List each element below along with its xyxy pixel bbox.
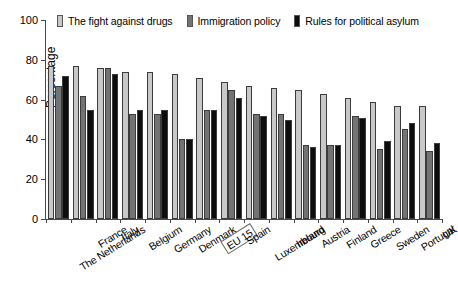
y-axis-tick-label: 0 bbox=[32, 213, 38, 225]
bar bbox=[62, 76, 68, 219]
bar bbox=[55, 86, 61, 219]
bar bbox=[352, 116, 358, 219]
bar bbox=[295, 90, 301, 219]
y-axis-tick-label: 80 bbox=[26, 54, 38, 66]
bar-group bbox=[343, 20, 368, 219]
bar-group bbox=[145, 20, 170, 219]
bar-group bbox=[219, 20, 244, 219]
bar bbox=[73, 66, 79, 219]
bar bbox=[285, 120, 291, 220]
bar bbox=[409, 123, 415, 219]
bar bbox=[320, 94, 326, 219]
bar bbox=[271, 88, 277, 219]
bar-group bbox=[195, 20, 220, 219]
bar bbox=[112, 74, 118, 219]
bar bbox=[221, 82, 227, 219]
x-axis-labels: The NetherlandsFranceItalyBelgiumGermany… bbox=[45, 221, 441, 294]
bar-group bbox=[393, 20, 418, 219]
bar-group bbox=[96, 20, 121, 219]
bar bbox=[154, 114, 160, 219]
bar bbox=[335, 145, 341, 219]
plot-area: 020406080100 Percentage bbox=[45, 20, 442, 220]
bar bbox=[419, 106, 425, 219]
bar bbox=[310, 147, 316, 219]
bar-group bbox=[170, 20, 195, 219]
bar bbox=[147, 72, 153, 219]
bar bbox=[402, 129, 408, 219]
bar bbox=[303, 145, 309, 219]
bar bbox=[228, 90, 234, 219]
bar bbox=[204, 110, 210, 219]
bar bbox=[434, 143, 440, 219]
y-axis-tick-label: 40 bbox=[26, 133, 38, 145]
bar-group bbox=[269, 20, 294, 219]
bar bbox=[172, 74, 178, 219]
bar bbox=[48, 66, 54, 219]
bar bbox=[186, 139, 192, 219]
bar bbox=[246, 86, 252, 219]
bar bbox=[384, 141, 390, 219]
bar bbox=[236, 98, 242, 219]
bar bbox=[327, 145, 333, 219]
bar bbox=[394, 106, 400, 219]
bar bbox=[260, 116, 266, 219]
bar bbox=[129, 114, 135, 219]
bar bbox=[377, 149, 383, 219]
bar bbox=[253, 114, 259, 219]
bar-group bbox=[368, 20, 393, 219]
y-axis-tick-label: 60 bbox=[26, 94, 38, 106]
bar-group bbox=[294, 20, 319, 219]
bar bbox=[105, 68, 111, 219]
y-axis-tick-label: 100 bbox=[20, 14, 38, 26]
bar bbox=[137, 110, 143, 219]
bar bbox=[278, 114, 284, 219]
bar-group bbox=[120, 20, 145, 219]
bar bbox=[161, 110, 167, 219]
bar bbox=[196, 78, 202, 219]
bar-group bbox=[318, 20, 343, 219]
bar-group bbox=[244, 20, 269, 219]
bars-container bbox=[46, 20, 442, 219]
bar-group bbox=[417, 20, 442, 219]
bar bbox=[426, 151, 432, 219]
bar bbox=[179, 139, 185, 219]
bar bbox=[122, 72, 128, 219]
bar-group bbox=[71, 20, 96, 219]
bar bbox=[211, 110, 217, 219]
bar bbox=[80, 96, 86, 219]
bar-group bbox=[46, 20, 71, 219]
bar bbox=[359, 118, 365, 219]
bar bbox=[97, 68, 103, 219]
y-axis-tick-label: 20 bbox=[26, 173, 38, 185]
bar bbox=[370, 102, 376, 219]
x-axis-tick bbox=[442, 219, 443, 223]
bar bbox=[345, 98, 351, 219]
bar bbox=[87, 110, 93, 219]
